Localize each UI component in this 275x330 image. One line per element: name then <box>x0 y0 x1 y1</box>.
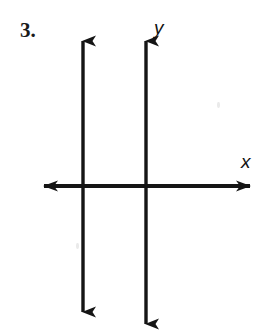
scan-speck-left-icon <box>76 243 79 249</box>
coordinate-plane-figure <box>0 0 275 330</box>
problem-number: 3. <box>20 20 36 41</box>
scan-speck-right-icon <box>217 102 220 108</box>
figure-page: 3. y x <box>0 0 275 330</box>
y-axis-label: y <box>154 18 164 37</box>
x-axis-label: x <box>241 152 251 171</box>
